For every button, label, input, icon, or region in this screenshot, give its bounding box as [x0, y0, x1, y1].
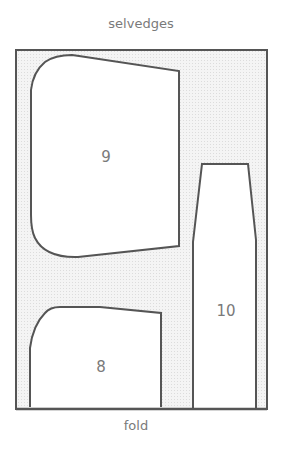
piece-10-number: 10 [216, 302, 235, 320]
cutting-layout-diagram: 9 8 10 [0, 0, 284, 458]
fold-label: fold [86, 418, 186, 433]
pattern-piece-10: 10 [193, 164, 256, 408]
pattern-piece-8: 8 [30, 307, 161, 407]
piece-8-number: 8 [96, 358, 106, 376]
pattern-piece-9: 9 [31, 55, 179, 257]
piece-9-number: 9 [101, 148, 111, 166]
